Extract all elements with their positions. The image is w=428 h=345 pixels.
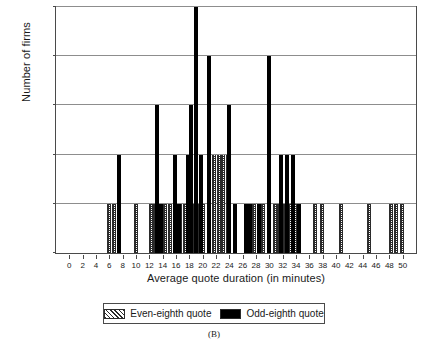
x-tick-mark xyxy=(149,255,150,259)
bar-even xyxy=(217,155,221,253)
bar-odd xyxy=(233,204,237,253)
bar-even xyxy=(367,204,371,253)
legend-swatch-even-icon xyxy=(104,309,125,319)
bar-even xyxy=(168,204,172,253)
x-tick-mark xyxy=(349,255,350,259)
x-tick-mark xyxy=(203,255,204,259)
bar-odd xyxy=(207,56,211,253)
y-tick-mark xyxy=(53,6,56,7)
bar-odd xyxy=(285,155,289,253)
x-tick-mark xyxy=(123,255,124,259)
figure-caption: (B) xyxy=(0,329,428,339)
gridline xyxy=(56,154,416,155)
x-tick-mark xyxy=(269,255,270,259)
bar-odd xyxy=(227,105,231,253)
bar-odd xyxy=(189,105,193,253)
bar-odd xyxy=(267,56,271,253)
bar-even xyxy=(389,204,393,253)
bar-even xyxy=(339,204,343,253)
x-tick-mark xyxy=(176,255,177,259)
legend-label-odd: Odd-eighth quote xyxy=(246,308,323,319)
bar-odd xyxy=(177,204,181,253)
x-axis-title: Average quote duration (in minutes) xyxy=(55,272,417,284)
bar-odd xyxy=(248,204,252,253)
x-tick-mark xyxy=(403,255,404,259)
x-tick-mark xyxy=(163,255,164,259)
bar-even xyxy=(313,204,317,253)
y-axis-title: Number of firms xyxy=(20,0,32,132)
gridline xyxy=(56,55,416,56)
legend-entry-odd: Odd-eighth quote xyxy=(220,308,323,319)
x-tick-mark xyxy=(336,255,337,259)
x-tick-mark xyxy=(283,255,284,259)
x-tick-mark xyxy=(216,255,217,259)
x-tick-mark xyxy=(96,255,97,259)
bar-odd xyxy=(159,204,163,253)
y-tick-mark xyxy=(53,252,56,253)
bar-even xyxy=(107,204,111,253)
bar-odd xyxy=(279,155,283,253)
bar-odd xyxy=(297,204,301,253)
bar-even xyxy=(261,204,265,253)
x-tick-mark xyxy=(136,255,137,259)
x-tick-mark xyxy=(256,255,257,259)
bar-even xyxy=(134,204,138,253)
x-tick-mark xyxy=(229,255,230,259)
gridline xyxy=(56,6,416,7)
y-tick-mark xyxy=(53,154,56,155)
x-tick-mark xyxy=(83,255,84,259)
x-tick-mark xyxy=(109,255,110,259)
bar-odd xyxy=(257,204,261,253)
bar-odd xyxy=(199,155,203,253)
x-tick-mark xyxy=(309,255,310,259)
x-tick-label: 50 xyxy=(395,261,411,270)
legend-swatch-odd-icon xyxy=(220,309,241,319)
y-tick-mark xyxy=(53,203,56,204)
gridline xyxy=(56,104,416,105)
x-tick-mark xyxy=(363,255,364,259)
bar-even xyxy=(221,155,225,253)
bar-even xyxy=(149,204,153,253)
x-tick-mark xyxy=(69,255,70,259)
bar-even xyxy=(320,204,324,253)
figure: 012345 024681012141618202224262830323436… xyxy=(0,0,428,345)
y-tick-mark xyxy=(53,104,56,105)
legend: Even-eighth quote Odd-eighth quote xyxy=(103,303,325,324)
bar-odd xyxy=(291,155,295,253)
y-tick-mark xyxy=(53,55,56,56)
x-tick-mark xyxy=(323,255,324,259)
x-tick-mark xyxy=(243,255,244,259)
x-tick-mark xyxy=(389,255,390,259)
bar-even xyxy=(394,204,398,253)
bar-even xyxy=(163,204,167,253)
legend-label-even: Even-eighth quote xyxy=(130,308,211,319)
bar-even xyxy=(252,204,256,253)
bar-even xyxy=(273,204,277,253)
x-tick-mark xyxy=(189,255,190,259)
bar-even xyxy=(400,204,404,253)
legend-entry-even: Even-eighth quote xyxy=(104,308,211,319)
bar-odd xyxy=(194,7,198,253)
plot-area: 012345 024681012141618202224262830323436… xyxy=(55,6,417,254)
x-tick-mark xyxy=(296,255,297,259)
bar-odd xyxy=(117,155,121,253)
bar-even xyxy=(112,204,116,253)
bar-even xyxy=(212,155,216,253)
x-tick-mark xyxy=(376,255,377,259)
